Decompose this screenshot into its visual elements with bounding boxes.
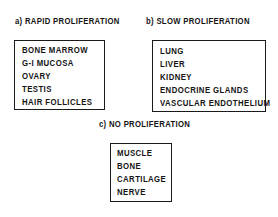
list-item: NERVE [117, 186, 166, 199]
panel-a-caption: a) RAPID PROLIFERATION [15, 17, 120, 26]
panel-b-caption: b) SLOW PROLIFERATION [146, 17, 250, 26]
panel-a-item-list: BONE MARROW G-I MUCOSA OVARY TESTIS HAIR… [22, 44, 96, 109]
list-item: OVARY [22, 70, 92, 83]
panel-c-item-list: MUSCLE BONE CARTILAGE NERVE [117, 147, 169, 199]
list-item: CARTILAGE [117, 173, 166, 186]
panel-c-caption: c) NO PROLIFERATION [99, 120, 190, 129]
list-item: ENDOCRINE GLANDS [160, 84, 270, 97]
list-item: TESTIS [22, 83, 92, 96]
list-item: BONE MARROW [22, 44, 92, 57]
proliferation-figure: a) RAPID PROLIFERATION BONE MARROW G-I M… [0, 0, 278, 217]
list-item: LUNG [160, 45, 270, 58]
list-item: LIVER [160, 58, 270, 71]
list-item: MUSCLE [117, 147, 166, 160]
panel-b-item-list: LUNG LIVER KIDNEY ENDOCRINE GLANDS VASCU… [160, 45, 276, 110]
list-item: VASCULAR ENDOTHELIUM [160, 97, 270, 110]
list-item: G-I MUCOSA [22, 57, 92, 70]
list-item: KIDNEY [160, 71, 270, 84]
list-item: HAIR FOLLICLES [22, 96, 92, 109]
list-item: BONE [117, 160, 166, 173]
